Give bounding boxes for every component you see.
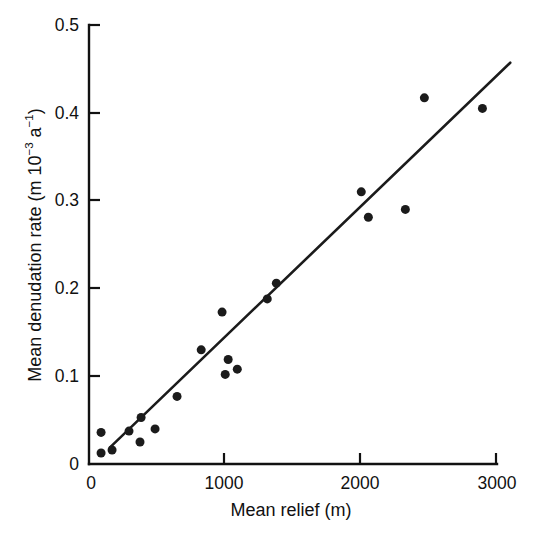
y-tick-label-0.4: 0.4 <box>55 103 80 123</box>
y-axis-title-mid: a <box>25 126 45 142</box>
data-point <box>357 187 366 196</box>
data-point <box>136 438 145 447</box>
y-tick-label-0.2: 0.2 <box>55 278 79 298</box>
regression-line <box>110 63 510 448</box>
x-tick-label-1000: 1000 <box>205 473 244 493</box>
x-tick-labels: 0 1000 2000 3000 <box>86 473 517 493</box>
svg-text:Mean denudation rate (m 10−3 a: Mean denudation rate (m 10−3 a−1) <box>23 108 45 381</box>
data-point <box>125 427 134 436</box>
data-point <box>420 93 429 102</box>
data-point <box>364 213 373 222</box>
y-tick-label-0.5: 0.5 <box>55 15 79 35</box>
data-point <box>478 104 487 113</box>
axes-group <box>89 25 497 464</box>
x-axis-title: Mean relief (m) <box>230 500 351 520</box>
y-axis-title-exp1: −3 <box>23 142 35 155</box>
data-point <box>233 365 242 374</box>
data-point <box>272 279 281 288</box>
x-ticks-group <box>224 453 496 464</box>
y-tick-label-0.3: 0.3 <box>55 190 79 210</box>
data-point <box>263 294 272 303</box>
x-tick-label-3000: 3000 <box>478 473 517 493</box>
data-point <box>221 370 230 379</box>
y-axis-title-prefix: Mean denudation rate (m 10 <box>25 156 45 382</box>
y-axis-title-exp2: −1 <box>23 114 35 127</box>
data-point <box>97 449 106 458</box>
y-tick-labels: 0.5 0.4 0.3 0.2 0.1 0 <box>55 15 80 474</box>
scatter-plot-figure: 0.5 0.4 0.3 0.2 0.1 0 0 1000 2000 3000 M… <box>0 0 546 536</box>
y-tick-label-0.1: 0.1 <box>55 366 79 386</box>
plot-canvas: 0.5 0.4 0.3 0.2 0.1 0 0 1000 2000 3000 M… <box>0 0 546 536</box>
data-point <box>137 413 146 422</box>
data-point <box>151 424 160 433</box>
data-point <box>224 355 233 364</box>
data-point <box>108 445 117 454</box>
data-point <box>401 205 410 214</box>
data-point <box>173 392 182 401</box>
x-tick-label-2000: 2000 <box>341 473 380 493</box>
y-ticks-group <box>89 25 100 376</box>
data-point <box>197 345 206 354</box>
data-point <box>97 428 106 437</box>
y-axis-title: Mean denudation rate (m 10−3 a−1) <box>23 108 45 381</box>
y-axis-title-suffix: ) <box>25 108 45 114</box>
data-point <box>218 308 227 317</box>
y-tick-label-0: 0 <box>69 454 79 474</box>
x-tick-label-0: 0 <box>86 473 96 493</box>
